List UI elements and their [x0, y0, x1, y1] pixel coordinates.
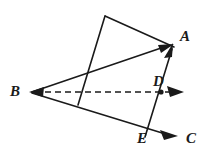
segment-e-through-d-to-a — [145, 49, 172, 137]
quad-edge-top-right — [105, 16, 174, 47]
arrowhead-at-b — [29, 87, 44, 97]
arrowhead-at-dashed-ray-end — [167, 86, 184, 97]
arrowhead-at-c — [160, 130, 178, 140]
point-label-b: B — [10, 84, 20, 99]
point-label-d: D — [153, 74, 164, 89]
point-label-a: A — [180, 29, 190, 44]
ray-b-to-a — [32, 46, 167, 92]
point-label-e: E — [137, 131, 147, 146]
point-label-c: C — [186, 131, 196, 146]
ray-b-through-e-to-c — [32, 93, 172, 136]
geometry-canvas — [0, 0, 211, 162]
geometry-figure: A B C D E — [0, 0, 211, 162]
point-d-marker — [158, 89, 163, 94]
